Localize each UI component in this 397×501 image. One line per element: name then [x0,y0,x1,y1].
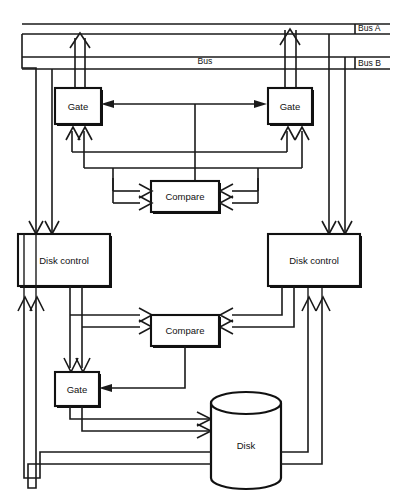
wire-between-top-gates [101,100,267,181]
compare-top-label: Compare [165,191,204,202]
wire-gate-bottom-to-disk [70,406,211,438]
compare-bottom-label: Compare [165,325,204,336]
disk-cylinder: Disk [211,392,281,489]
disk-control-right-label: Disk control [289,255,339,266]
bus-b-label: Bus B [358,58,381,68]
disk-control-right-block: Disk control [268,234,362,288]
wire-disk-control-left-down [64,286,90,372]
wire-disk-control-right-to-compare-bottom [220,286,294,334]
wire-gate-top-right-to-bus [280,29,300,88]
bus-a-lines [22,24,390,34]
gate-top-left-label: Gate [68,101,89,112]
gate-top-left-block: Gate [55,88,103,126]
gate-top-right-block: Gate [268,88,314,126]
wire-disk-to-disk-control-right [281,297,330,464]
disk-label: Disk [237,440,256,451]
wire-bus-to-disk-control-right [322,34,352,234]
gate-bottom-left-block: Gate [55,372,101,408]
disk-control-left-block: Disk control [18,234,112,288]
wire-into-gate-top-left [66,127,302,168]
compare-top-block: Compare [151,181,221,214]
diagram-canvas: Bus A Bus B Bus [0,0,397,501]
wire-bus-to-disk-control-left [22,34,59,234]
disk-control-left-label: Disk control [39,255,89,266]
bus-mid-label: Bus [198,56,213,66]
wire-into-gate-top-right [281,127,309,168]
wire-gate-top-left-to-bus [70,33,90,88]
wire-into-compare-top-left [113,168,152,210]
wire-into-compare-top-right [220,168,258,210]
wire-compare-bottom-to-gate [99,346,185,392]
bus-a-label: Bus A [358,23,381,33]
compare-bottom-block: Compare [151,315,221,348]
block-diagram: Bus A Bus B Bus [0,0,397,501]
gate-top-right-label: Gate [280,101,301,112]
gate-bottom-left-label: Gate [67,384,88,395]
